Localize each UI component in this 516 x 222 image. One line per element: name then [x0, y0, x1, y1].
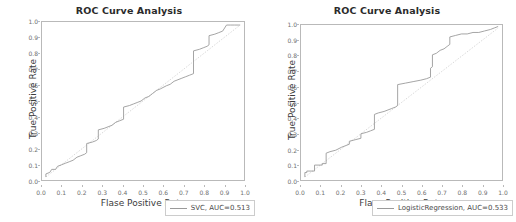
x-tick-mark [184, 185, 185, 187]
x-tick-label: 0.5 [397, 189, 407, 196]
y-tick-mark [297, 55, 299, 56]
x-tick-mark [442, 185, 443, 187]
y-tick-mark [297, 103, 299, 104]
x-tick-label: 0.2 [77, 189, 87, 196]
x-tick-mark [163, 185, 164, 187]
x-tick-mark [320, 185, 321, 187]
x-tick-label: 0.3 [97, 189, 107, 196]
x-tick-mark [381, 185, 382, 187]
y-tick-mark [38, 181, 40, 182]
y-tick-mark [38, 69, 40, 70]
x-tick-mark [402, 185, 403, 187]
legend-line-swatch-icon [377, 208, 394, 209]
chance-diagonal-line [46, 25, 240, 177]
roc-plot-svg-right [301, 25, 502, 180]
x-tick-label: 0.6 [159, 189, 169, 196]
y-axis-label-left: True Positive Rate [28, 19, 38, 179]
x-tick-mark [102, 185, 103, 187]
chart-panel-logisticregression: ROC Curve Analysis 0.00.10.20.30.40.50.6… [258, 0, 516, 222]
x-tick-label: 0.8 [199, 189, 209, 196]
x-tick-mark [143, 185, 144, 187]
x-tick-mark [422, 185, 423, 187]
x-tick-label: 0.7 [179, 189, 189, 196]
y-tick-mark [38, 37, 40, 38]
x-tick-label: 0.3 [356, 189, 366, 196]
y-tick-mark [297, 87, 299, 88]
y-tick-mark [38, 85, 40, 86]
legend-label-svc: SVC, AUC=0.513 [191, 204, 250, 212]
x-tick-mark [361, 185, 362, 187]
x-tick-mark [204, 185, 205, 187]
x-tick-label: 0.5 [138, 189, 148, 196]
y-tick-label: 0.0 [287, 178, 297, 185]
y-tick-mark [297, 71, 299, 72]
y-tick-mark [38, 165, 40, 166]
y-tick-mark [297, 165, 299, 166]
x-tick-label: 0.6 [417, 189, 427, 196]
x-tick-label: 0.2 [336, 189, 346, 196]
x-tick-mark [300, 185, 301, 187]
x-axis-ticks-left: 0.00.10.20.30.40.50.60.70.80.91.0 [41, 185, 245, 197]
x-tick-label: 0.7 [437, 189, 447, 196]
legend-line-swatch-icon [170, 208, 187, 209]
y-axis-label-right: True Positive Rate [287, 22, 297, 179]
y-tick-mark [38, 21, 40, 22]
y-tick-mark [38, 101, 40, 102]
page-title-right: ROC Curve Analysis [258, 5, 516, 16]
x-tick-label: 0.8 [458, 189, 468, 196]
x-tick-mark [41, 185, 42, 187]
x-tick-mark [503, 185, 504, 187]
y-tick-mark [297, 134, 299, 135]
x-tick-label: 0.4 [376, 189, 386, 196]
roc-plot-svg-left [42, 22, 244, 180]
roc-figure: ROC Curve Analysis 0.00.10.20.30.40.50.6… [0, 0, 516, 222]
x-tick-label: 0.9 [220, 189, 230, 196]
x-tick-mark [123, 185, 124, 187]
y-tick-mark [38, 117, 40, 118]
x-tick-label: 0.4 [118, 189, 128, 196]
x-tick-label: 0.0 [36, 189, 46, 196]
x-tick-mark [245, 185, 246, 187]
y-tick-mark [297, 24, 299, 25]
x-tick-label: 0.0 [295, 189, 305, 196]
plot-area-right [300, 24, 503, 181]
x-tick-mark [82, 185, 83, 187]
x-tick-mark [225, 185, 226, 187]
x-tick-label: 0.1 [316, 189, 326, 196]
x-tick-mark [462, 185, 463, 187]
legend-label-logisticregression: LogisticRegression, AUC=0.533 [398, 204, 508, 212]
y-tick-mark [38, 149, 40, 150]
x-axis-ticks-right: 0.00.10.20.30.40.50.60.70.80.91.0 [300, 185, 503, 197]
y-tick-mark [297, 118, 299, 119]
legend-right: LogisticRegression, AUC=0.533 [372, 200, 513, 216]
page-title-left: ROC Curve Analysis [0, 5, 258, 16]
y-tick-mark [297, 150, 299, 151]
chance-diagonal-line [305, 28, 498, 177]
x-tick-label: 0.1 [57, 189, 67, 196]
x-tick-label: 1.0 [240, 189, 250, 196]
y-tick-mark [297, 181, 299, 182]
x-tick-mark [341, 185, 342, 187]
x-tick-label: 0.9 [478, 189, 488, 196]
chart-panel-svc: ROC Curve Analysis 0.00.10.20.30.40.50.6… [0, 0, 258, 222]
legend-left: SVC, AUC=0.513 [165, 200, 255, 216]
x-tick-mark [483, 185, 484, 187]
x-tick-label: 1.0 [498, 189, 508, 196]
x-tick-mark [61, 185, 62, 187]
y-tick-mark [297, 40, 299, 41]
y-tick-mark [38, 53, 40, 54]
y-tick-mark [38, 133, 40, 134]
plot-area-left [41, 21, 245, 181]
